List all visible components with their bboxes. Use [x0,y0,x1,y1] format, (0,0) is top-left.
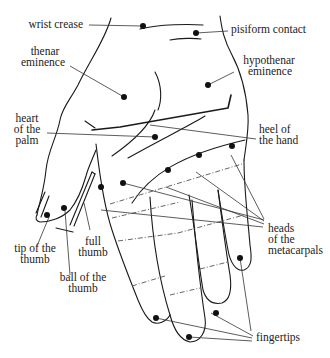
dot-metacarpal-1 [120,180,126,186]
label-thenar-line2: eminence [21,56,65,68]
label-heel-line2: the hand [259,134,299,146]
dot-metacarpal-4 [229,143,235,149]
palm-creases [85,24,245,203]
label-ball-thumb-line2: thumb [68,282,98,294]
label-heads-line3: metacarpals [268,244,323,257]
hand-anatomy-diagram: wrist crease pisiform contact thenar emi… [0,0,330,358]
label-heart-line3: palm [16,134,39,147]
label-tip-thumb-line2: thumb [20,253,50,265]
label-pisiform-contact: pisiform contact [231,23,307,36]
dot-fingertip-middle [186,334,192,340]
label-wrist-crease: wrist crease [28,18,83,30]
dot-metacarpal-3 [196,152,202,158]
dot-fingertip-ring [213,310,219,316]
dot-heart-of-palm [152,134,158,140]
dot-pisiform-contact [193,30,199,36]
dot-tip-of-thumb [44,212,50,218]
dot-fingertip-little [237,255,243,261]
dot-ball-of-thumb [61,205,67,211]
dot-thenar-eminence [121,94,127,100]
dot-hypothenar-eminence [205,82,211,88]
dot-metacarpal-2 [165,167,171,173]
label-hypothenar-line2: eminence [248,65,292,77]
dot-wrist-crease [140,23,146,29]
dot-fingertip-index [153,315,159,321]
label-full-thumb-line2: thumb [78,246,108,258]
labels: wrist crease pisiform contact thenar emi… [14,18,324,344]
label-fingertips: fingertips [256,331,301,344]
dot-metacarpal-5 [98,184,104,190]
